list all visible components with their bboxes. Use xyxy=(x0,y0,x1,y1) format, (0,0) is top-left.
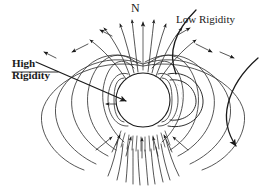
high-rigidity-label: High Rigidity xyxy=(10,58,52,81)
high-rigidity-label-line1: High xyxy=(10,58,52,70)
magnetosphere-diagram: N Low Rigidity High Rigidity xyxy=(0,0,264,189)
high-rigidity-label-line2: Rigidity xyxy=(10,70,52,82)
north-pole-label: N xyxy=(131,2,140,15)
diagram-canvas xyxy=(0,0,264,189)
south-pole-inflow-arrows xyxy=(96,135,188,158)
south-polar-field-lines xyxy=(108,140,179,185)
low-rigidity-label: Low Rigidity xyxy=(176,14,235,26)
radiation-belt-mesh xyxy=(166,70,203,132)
